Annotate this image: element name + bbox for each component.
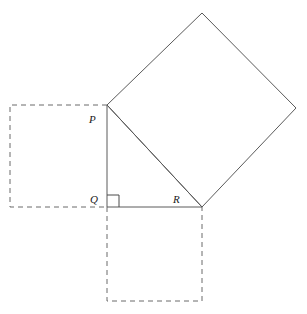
vertex-label-P: P xyxy=(88,113,96,125)
square-on-hypotenuse-PR xyxy=(107,13,296,207)
diagram-svg: P Q R xyxy=(0,0,307,314)
square-on-leg-QR xyxy=(107,207,202,301)
geometry-figure-canvas: P Q R xyxy=(0,0,307,314)
vertex-label-Q: Q xyxy=(90,193,98,205)
right-angle-marker-at-Q xyxy=(107,195,119,207)
vertex-label-R: R xyxy=(172,193,180,205)
